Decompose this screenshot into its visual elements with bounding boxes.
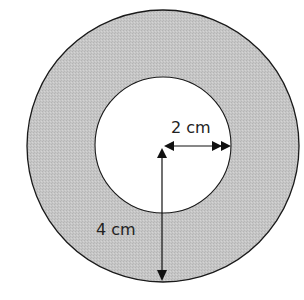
inner-circle [95,77,231,213]
inner-radius-label: 2 cm [171,118,211,137]
annulus-diagram: 2 cm 4 cm [0,0,304,300]
outer-radius-label: 4 cm [96,220,136,239]
